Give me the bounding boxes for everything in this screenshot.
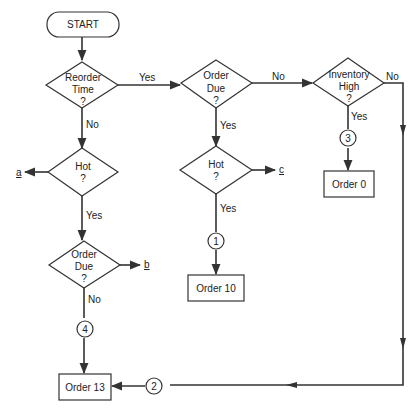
reorder-time-line2: Time bbox=[72, 84, 94, 95]
label-order-due-top-yes: Yes bbox=[220, 120, 236, 131]
label-order-due-left-no: No bbox=[88, 294, 101, 305]
order-due-top-line3: ? bbox=[213, 95, 219, 106]
inventory-high-line1: Inventory bbox=[328, 69, 369, 80]
label-reorder-yes: Yes bbox=[139, 72, 155, 83]
inventory-high-line2: High bbox=[339, 81, 360, 92]
exit-c: c bbox=[279, 164, 284, 175]
order-due-left-line2: Due bbox=[75, 261, 94, 272]
reorder-time-line1: Reorder bbox=[65, 72, 102, 83]
order-13-label: Order 13 bbox=[65, 382, 105, 393]
label-inventory-no: No bbox=[386, 71, 399, 82]
connector-3-label: 3 bbox=[345, 133, 351, 144]
order-due-top-line2: Due bbox=[207, 83, 226, 94]
decision-hot-left bbox=[48, 148, 118, 196]
inventory-high-line3: ? bbox=[346, 93, 352, 104]
order-due-top-line1: Order bbox=[203, 70, 229, 81]
hot-mid-line2: ? bbox=[213, 171, 219, 182]
label-hot-left-yes: Yes bbox=[86, 210, 102, 221]
reorder-time-line3: ? bbox=[80, 96, 86, 107]
connector-4-label: 4 bbox=[82, 324, 88, 335]
hot-left-line1: Hot bbox=[75, 161, 91, 172]
label-inventory-yes: Yes bbox=[351, 111, 367, 122]
exit-b: b bbox=[144, 259, 150, 270]
arrow-down-icon bbox=[400, 338, 406, 349]
order-0-label: Order 0 bbox=[332, 179, 366, 190]
edge-inventory-no-path bbox=[170, 83, 403, 385]
label-order-due-top-no: No bbox=[272, 71, 285, 82]
order-due-left-line3: ? bbox=[81, 273, 87, 284]
exit-a: a bbox=[16, 167, 22, 178]
arrow-down-icon bbox=[400, 125, 406, 136]
hot-mid-line1: Hot bbox=[208, 159, 224, 170]
label-reorder-no: No bbox=[86, 119, 99, 130]
decision-hot-mid bbox=[180, 146, 252, 194]
order-due-left-line1: Order bbox=[71, 249, 97, 260]
label-hot-mid-yes: Yes bbox=[220, 203, 236, 214]
connector-2-label: 2 bbox=[151, 381, 157, 392]
start-label: START bbox=[67, 19, 99, 30]
flowchart: START Reorder Time ? Hot ? Order Due ? O… bbox=[0, 0, 415, 408]
connector-1-label: 1 bbox=[213, 236, 219, 247]
hot-left-line2: ? bbox=[80, 173, 86, 184]
order-10-label: Order 10 bbox=[196, 283, 236, 294]
arrow-left-icon bbox=[286, 382, 297, 388]
